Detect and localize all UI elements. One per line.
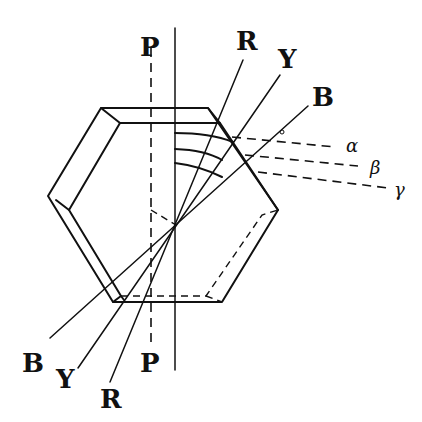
label-r-top: R [236, 26, 258, 56]
label-y-top: Y [277, 44, 297, 74]
arc-beta [175, 149, 222, 160]
dash-beta [245, 155, 358, 166]
label-beta: β [369, 157, 380, 178]
bevel-corner-tl [101, 108, 120, 123]
hexagon-outer [48, 108, 278, 302]
label-b-bottom: B [22, 348, 44, 378]
hexagon-bottomleft-bevel [69, 210, 121, 302]
arc-alpha [175, 133, 233, 142]
hidden-edge-center [151, 210, 176, 225]
label-r-bottom: R [100, 384, 122, 414]
label-alpha: α [346, 135, 358, 156]
label-y-bottom: Y [55, 364, 75, 394]
crystal-refraction-diagram: P R Y B α β γ B Y R P [0, 0, 422, 422]
dash-alpha [232, 137, 335, 147]
label-p-top: P [140, 32, 160, 62]
small-circle-marker [280, 130, 284, 134]
label-p-bottom: P [140, 348, 160, 378]
label-b-top: B [312, 82, 334, 112]
dash-gamma [258, 172, 388, 188]
label-gamma: γ [394, 179, 405, 200]
